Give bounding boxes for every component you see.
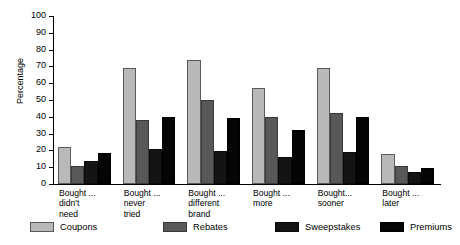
y-tick-label: 0 [41,178,46,188]
bar-premiums-group-2 [162,117,175,184]
bar-premiums-group-3 [227,118,240,184]
legend-swatch-premiums [380,222,404,232]
bar-rebates-group-3 [201,100,214,184]
bar-premiums-group-6 [421,168,434,184]
chart-legend: CouponsRebatesSweepstakesPremiums [0,222,460,240]
legend-label: Coupons [60,222,97,232]
bar-sweepstakes-group-5 [343,152,356,184]
x-category-label-4: Bought ... more [253,188,290,209]
bar-premiums-group-5 [356,117,369,184]
bar-sweepstakes-group-1 [84,161,97,184]
bar-rebates-group-4 [265,117,278,184]
y-axis-title: Percentage [15,41,25,121]
y-tick-label: 10 [36,161,46,171]
legend-swatch-rebates [163,222,187,232]
legend-label: Premiums [410,222,452,232]
bar-sweepstakes-group-3 [214,151,227,184]
y-tick-label: 70 [36,60,46,70]
plot-area [53,16,441,184]
bar-coupons-group-5 [317,68,330,184]
y-tick-label: 40 [36,111,46,121]
bar-rebates-group-1 [71,166,84,184]
bar-coupons-group-6 [381,154,394,184]
x-category-label-3: Bought ... different brand [188,188,225,219]
y-tick-label: 80 [36,44,46,54]
bar-premiums-group-4 [292,130,305,184]
bar-coupons-group-3 [187,60,200,184]
y-tick-label: 100 [31,10,46,20]
bar-coupons-group-1 [58,147,71,184]
bar-chart: Percentage 0102030405060708090100 Bought… [0,0,460,245]
y-tick-label: 90 [36,27,46,37]
legend-swatch-sweepstakes [275,222,299,232]
y-tick-label: 20 [36,144,46,154]
y-tick-mark [49,184,53,185]
legend-label: Sweepstakes [305,222,360,232]
bar-sweepstakes-group-4 [278,157,291,184]
y-tick-label: 50 [36,94,46,104]
legend-item-sweepstakes[interactable]: Sweepstakes [275,222,360,232]
legend-item-rebates[interactable]: Rebates [163,222,228,232]
bar-rebates-group-6 [395,166,408,184]
bar-coupons-group-4 [252,88,265,184]
legend-label: Rebates [193,222,228,232]
legend-item-coupons[interactable]: Coupons [30,222,97,232]
x-category-label-1: Bought ... didn't need [59,188,96,219]
bar-sweepstakes-group-2 [149,149,162,184]
legend-swatch-coupons [30,222,54,232]
legend-item-premiums[interactable]: Premiums [380,222,452,232]
bar-sweepstakes-group-6 [408,172,421,184]
bar-coupons-group-2 [123,68,136,184]
y-tick-label: 30 [36,128,46,138]
x-category-label-5: Bought... sooner [318,188,352,209]
y-tick-label: 60 [36,77,46,87]
bar-rebates-group-2 [136,120,149,184]
bar-rebates-group-5 [330,113,343,184]
x-category-label-6: Bought ... later [382,188,419,209]
x-axis-line [53,184,441,185]
x-category-label-2: Bought ... never tried [124,188,161,219]
bar-premiums-group-1 [98,153,111,184]
